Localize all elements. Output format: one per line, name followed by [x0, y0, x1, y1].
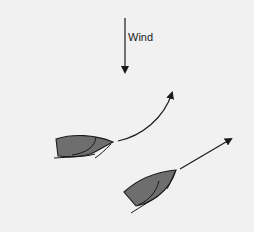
sailing-diagram: Wind [0, 0, 254, 232]
wind-label: Wind [128, 32, 153, 43]
curved-course-arrow-icon [118, 93, 172, 141]
boat-1-icon [54, 136, 113, 158]
straight-course-arrow-icon [180, 139, 231, 169]
diagram-graphics [0, 0, 254, 232]
boat-2-icon [124, 170, 176, 213]
